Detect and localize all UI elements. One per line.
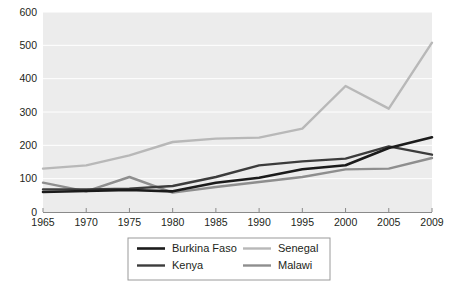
x-axis-tick-label: 1980 xyxy=(161,216,185,228)
x-axis-tick-label: 2005 xyxy=(377,216,401,228)
x-axis-tick-label: 1990 xyxy=(247,216,271,228)
legend: Burkina FasoSenegalKenyaMalawi xyxy=(128,238,330,280)
x-axis-tick-label: 1995 xyxy=(291,216,315,228)
x-axis-tick-label: 2000 xyxy=(334,216,358,228)
y-axis-tick-label: 600 xyxy=(19,6,37,18)
x-axis-tick-label: 1965 xyxy=(31,216,55,228)
x-axis-tick-label: 1970 xyxy=(75,216,99,228)
x-axis-tick-label: 1975 xyxy=(118,216,142,228)
legend-label-malawi: Malawi xyxy=(278,259,312,271)
legend-label-kenya: Kenya xyxy=(172,259,204,271)
x-axis-tick-label: 1985 xyxy=(204,216,228,228)
y-axis-tick-label: 200 xyxy=(19,139,37,151)
y-axis-tick-labels: 0100200300400500600 xyxy=(19,6,37,218)
y-axis-tick-label: 500 xyxy=(19,39,37,51)
line-chart: 0100200300400500600 19651970197519801985… xyxy=(0,0,454,286)
chart-canvas: 0100200300400500600 19651970197519801985… xyxy=(0,0,454,286)
x-axis-tick-label: 2009 xyxy=(420,216,444,228)
x-axis-tick-labels: 1965197019751980198519901995200020052009 xyxy=(31,216,444,228)
legend-label-senegal: Senegal xyxy=(278,242,318,254)
y-axis-tick-label: 100 xyxy=(19,172,37,184)
legend-label-burkina-faso: Burkina Faso xyxy=(172,242,237,254)
y-axis-tick-label: 300 xyxy=(19,106,37,118)
y-axis-tick-label: 400 xyxy=(19,72,37,84)
